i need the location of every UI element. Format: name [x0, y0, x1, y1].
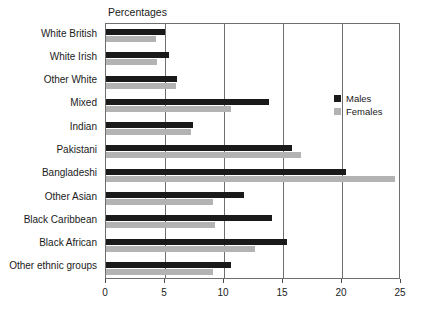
bar-group — [106, 24, 399, 47]
category-label: Pakistani — [0, 144, 97, 155]
x-tick-label: 25 — [380, 287, 420, 298]
bar-group — [106, 257, 399, 280]
bar-males — [106, 122, 193, 128]
legend-swatch-icon — [334, 95, 341, 102]
chart-title: Percentages — [108, 6, 167, 18]
category-label: Other White — [0, 74, 97, 85]
bar-females — [106, 59, 157, 65]
bar-females — [106, 83, 176, 89]
legend-label: Males — [346, 93, 371, 104]
category-label: Bangladeshi — [0, 167, 97, 178]
legend-item: Males — [334, 92, 382, 105]
bar-females — [106, 199, 213, 205]
chart-legend: MalesFemales — [334, 92, 382, 118]
legend-item: Females — [334, 105, 382, 118]
category-label: White British — [0, 28, 97, 39]
bar-males — [106, 99, 269, 105]
bar-males — [106, 169, 346, 175]
bar-group — [106, 187, 399, 210]
bar-group — [106, 117, 399, 140]
x-tick-0 — [105, 279, 106, 283]
bar-females — [106, 36, 156, 42]
bar-males — [106, 145, 292, 151]
bar-males — [106, 215, 272, 221]
x-tick-label: 20 — [321, 287, 361, 298]
category-label: Black African — [0, 237, 97, 248]
category-label: Black Caribbean — [0, 214, 97, 225]
bar-males — [106, 76, 177, 82]
bar-chart: Percentages White BritishWhite IrishOthe… — [0, 0, 423, 315]
x-tick-25 — [400, 279, 401, 283]
x-tick-5 — [164, 279, 165, 283]
bar-group — [106, 233, 399, 256]
bar-group — [106, 71, 399, 94]
category-label: Mixed — [0, 97, 97, 108]
bar-group — [106, 140, 399, 163]
bar-females — [106, 129, 191, 135]
plot-area — [105, 23, 400, 279]
bar-females — [106, 246, 255, 252]
x-tick-label: 5 — [144, 287, 184, 298]
bar-group — [106, 164, 399, 187]
legend-label: Females — [346, 106, 382, 117]
category-label: White Irish — [0, 51, 97, 62]
category-label: Other ethnic groups — [0, 260, 97, 271]
bar-females — [106, 269, 213, 275]
bar-rows — [106, 24, 399, 278]
x-tick-label: 10 — [203, 287, 243, 298]
bar-males — [106, 29, 165, 35]
x-tick-10 — [223, 279, 224, 283]
bar-males — [106, 52, 169, 58]
bar-males — [106, 239, 287, 245]
legend-swatch-icon — [334, 108, 341, 115]
bar-males — [106, 262, 231, 268]
x-tick-label: 15 — [262, 287, 302, 298]
bar-females — [106, 222, 215, 228]
category-label: Indian — [0, 121, 97, 132]
x-tick-20 — [341, 279, 342, 283]
category-label: Other Asian — [0, 191, 97, 202]
bar-group — [106, 210, 399, 233]
bar-females — [106, 106, 231, 112]
bar-females — [106, 176, 395, 182]
bar-females — [106, 152, 301, 158]
bar-group — [106, 47, 399, 70]
bar-males — [106, 192, 244, 198]
x-tick-15 — [282, 279, 283, 283]
x-tick-label: 0 — [85, 287, 125, 298]
